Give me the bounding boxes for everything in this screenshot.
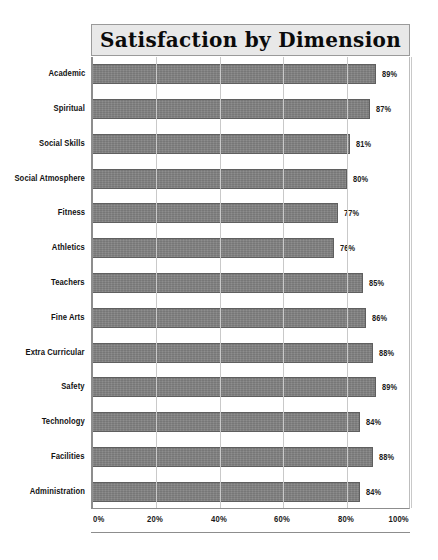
- category-label-administration: Administration: [30, 487, 85, 496]
- bar-row: 86%: [92, 308, 409, 328]
- bar-social-atmosphere: 80%: [92, 169, 347, 189]
- category-label-social-atmosphere: Social Atmosphere: [15, 174, 85, 183]
- bar-row: 77%: [92, 203, 409, 223]
- bar-value-label: 87%: [376, 104, 391, 114]
- bar-row: 88%: [92, 447, 409, 467]
- category-label-athletics: Athletics: [52, 243, 85, 252]
- bar-spiritual: 87%: [92, 99, 370, 119]
- bar-extra-curricular: 88%: [92, 343, 373, 363]
- bar-administration: 84%: [92, 482, 360, 502]
- chart-title-banner: Satisfaction by Dimension: [91, 24, 410, 56]
- bar-value-label: 89%: [382, 382, 397, 392]
- gridline-100: [411, 57, 412, 508]
- bar-row: 76%: [92, 238, 409, 258]
- bar-row: 84%: [92, 482, 409, 502]
- bar-safety: 89%: [92, 377, 376, 397]
- bar-facilities: 88%: [92, 447, 373, 467]
- bar-fitness: 77%: [92, 203, 338, 223]
- category-axis-labels: AcademicSpiritualSocial SkillsSocial Atm…: [0, 57, 85, 509]
- bar-row: 80%: [92, 169, 409, 189]
- bar-row: 84%: [92, 412, 409, 432]
- category-label-extra-curricular: Extra Curricular: [26, 348, 85, 357]
- bar-athletics: 76%: [92, 238, 334, 258]
- category-label-technology: Technology: [42, 417, 85, 426]
- bar-value-label: 88%: [379, 348, 394, 358]
- category-label-safety: Safety: [62, 382, 85, 391]
- bar-value-label: 76%: [340, 243, 355, 253]
- x-tick-label-40: 40%: [207, 514, 231, 524]
- bar-value-label: 86%: [372, 313, 387, 323]
- bar-fine-arts: 86%: [92, 308, 366, 328]
- bar-value-label: 81%: [356, 139, 371, 149]
- bar-row: 81%: [92, 134, 409, 154]
- category-label-academic: Academic: [48, 69, 85, 78]
- x-tick-label-80: 80%: [334, 514, 358, 524]
- category-label-social-skills: Social Skills: [39, 139, 85, 148]
- x-tick-label-100: 100%: [389, 514, 409, 524]
- x-tick-label-20: 20%: [143, 514, 167, 524]
- category-label-fitness: Fitness: [58, 208, 85, 217]
- category-label-fine-arts: Fine Arts: [51, 313, 85, 322]
- bar-academic: 89%: [92, 64, 376, 84]
- bar-social-skills: 81%: [92, 134, 350, 154]
- bar-row: 87%: [92, 99, 409, 119]
- bar-technology: 84%: [92, 412, 360, 432]
- bar-value-label: 77%: [344, 208, 359, 218]
- bar-value-label: 85%: [369, 278, 384, 288]
- bar-series: 89%87%81%80%77%76%85%86%88%89%84%88%84%: [92, 57, 409, 508]
- bar-value-label: 84%: [366, 487, 381, 497]
- bar-value-label: 80%: [353, 174, 368, 184]
- x-tick-label-60: 60%: [270, 514, 294, 524]
- x-tick-label-0: 0%: [93, 514, 104, 524]
- plot-area: 89%87%81%80%77%76%85%86%88%89%84%88%84%: [91, 57, 410, 509]
- bar-row: 85%: [92, 273, 409, 293]
- chart-title: Satisfaction by Dimension: [100, 28, 401, 52]
- bar-value-label: 88%: [379, 452, 394, 462]
- category-label-teachers: Teachers: [51, 278, 85, 287]
- bar-row: 89%: [92, 64, 409, 84]
- category-label-spiritual: Spiritual: [54, 104, 85, 113]
- bar-value-label: 84%: [366, 417, 381, 427]
- bar-teachers: 85%: [92, 273, 363, 293]
- category-label-facilities: Facilities: [51, 452, 85, 461]
- value-axis: 0%20%40%60%80%100%: [91, 509, 410, 533]
- chart-figure: Satisfaction by Dimension AcademicSpirit…: [0, 0, 438, 560]
- bar-value-label: 89%: [382, 69, 397, 79]
- bar-row: 89%: [92, 377, 409, 397]
- bar-row: 88%: [92, 343, 409, 363]
